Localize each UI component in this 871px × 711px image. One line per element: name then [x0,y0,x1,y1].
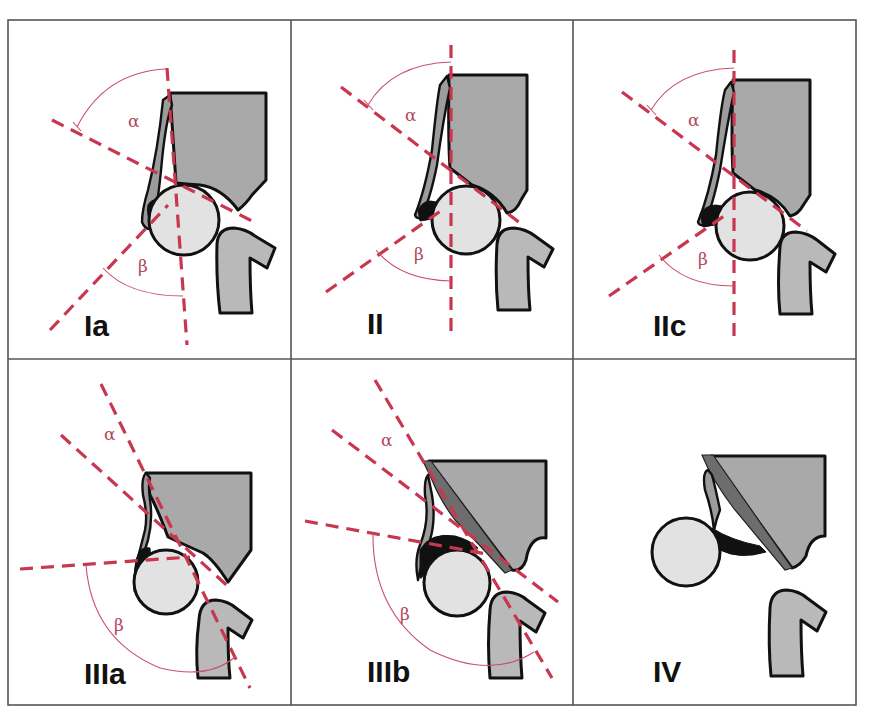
beta-symbol: β [138,256,148,276]
beta-symbol: β [698,249,708,269]
panel-iiia: α β IIIa [20,384,252,690]
alpha-symbol: α [128,111,140,131]
beta-arc [659,255,734,286]
panel-ii: α β II [326,45,553,340]
greater-trochanter [217,228,275,313]
alpha-symbol: α [405,105,417,125]
panel-label-iv: IV [653,655,681,688]
panel-iiib: α β IIIb [305,380,558,688]
femoral-head [424,550,490,616]
panel-label-ii: II [367,307,384,340]
femoral-head [149,185,219,255]
beta-symbol: β [414,244,424,264]
panel-ia: α β Ia [50,68,275,345]
panel-iic: α β IIc [609,50,835,342]
beta-symbol: β [400,604,410,624]
femoral-head [652,518,720,586]
panel-label-iic: IIc [653,309,686,342]
femoral-head [716,192,784,260]
femoral-head [432,186,500,254]
alpha-symbol: α [688,110,700,130]
panel-label-iiia: IIIa [84,657,126,690]
hip-classification-figure: α β Ia α β II α β IIc [0,0,871,711]
greater-trochanter [779,232,836,314]
panel-iv: IV [652,455,826,688]
cartilage-roof-line [326,210,442,292]
greater-trochanter [769,590,826,676]
greater-trochanter [496,228,553,310]
alpha-symbol: α [381,430,393,450]
beta-symbol: β [114,615,124,635]
panel-label-iiib: IIIb [367,655,410,688]
alpha-arc [77,69,166,127]
panel-label-ia: Ia [84,309,109,342]
alpha-symbol: α [104,424,116,444]
